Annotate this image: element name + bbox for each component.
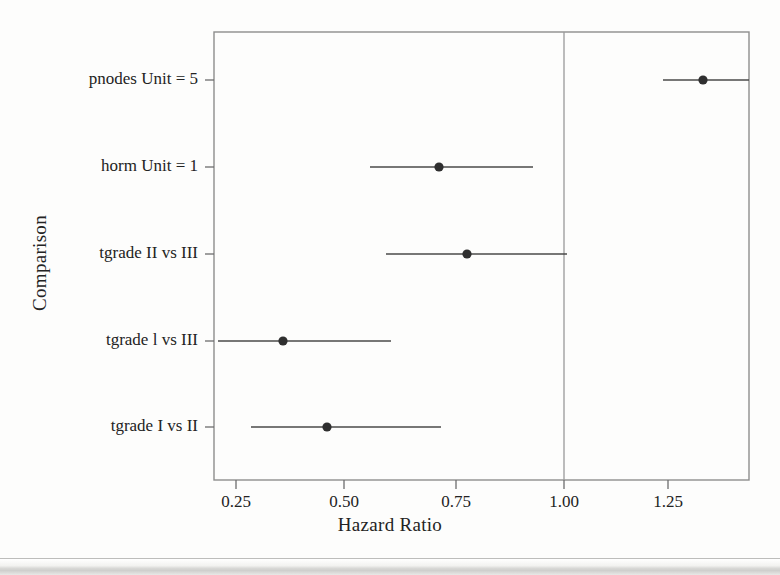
- x-tick-label-1-25: 1.25: [628, 492, 708, 512]
- y-tick-label-tgrade-i-vs-ii: tgrade I vs II: [8, 416, 198, 436]
- estimate-point: [278, 336, 287, 345]
- y-axis-title: Comparison: [29, 183, 51, 343]
- x-axis-title: Hazard Ratio: [0, 514, 780, 536]
- y-axis-ticks: [205, 80, 214, 427]
- x-axis-ticks: [236, 480, 668, 489]
- data-row-horm-unit-1: [370, 162, 533, 171]
- estimate-point: [434, 162, 443, 171]
- x-tick-label-0-25: 0.25: [196, 492, 276, 512]
- data-row-tgrade-i-vs-ii: [251, 422, 441, 431]
- estimate-point: [462, 249, 471, 258]
- plot-frame: [214, 32, 749, 480]
- data-row-tgrade-i-vs-iii: [218, 336, 391, 345]
- data-row-tgrade-ii-vs-iii: [386, 249, 567, 258]
- estimate-point: [698, 75, 707, 84]
- x-tick-label-1-00: 1.00: [524, 492, 604, 512]
- y-tick-label-horm-unit-1: horm Unit = 1: [8, 156, 198, 176]
- x-tick-label-0-75: 0.75: [416, 492, 496, 512]
- x-tick-label-0-50: 0.50: [304, 492, 384, 512]
- data-row-pnodes-unit-5: [663, 75, 749, 84]
- estimate-point: [322, 422, 331, 431]
- forest-plot-figure: pnodes Unit = 5 horm Unit = 1 tgrade II …: [0, 0, 780, 575]
- page-scan-edge-strip: [0, 558, 780, 575]
- y-tick-label-pnodes-unit-5: pnodes Unit = 5: [8, 69, 198, 89]
